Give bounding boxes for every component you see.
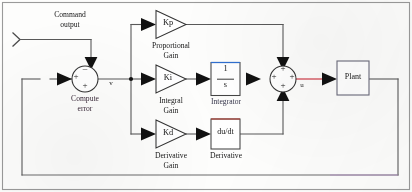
signal-label-v: v (106, 80, 116, 87)
integrator-caption: Integrator (198, 98, 254, 106)
ki-caption-line1: Integral (138, 97, 204, 105)
input-chevron-icon (13, 33, 20, 46)
arrowhead-ki-in (141, 73, 156, 86)
arrowhead-derivative-in (196, 128, 211, 141)
sum-error-caption-line2: error (55, 105, 115, 113)
sum-error-sign-top: – (80, 64, 90, 73)
kd-caption-line2: Gain (136, 162, 206, 170)
kp-caption-line1: Proportional (134, 42, 208, 50)
plant-label: Plant (337, 73, 369, 81)
signal-label-u: u (297, 82, 307, 89)
sum-error-sign-left: + (71, 72, 81, 81)
ki-caption-line2: Gain (138, 107, 204, 115)
sum-error-sign-bottom: + (80, 81, 90, 90)
gain-symbol-kd: Kd (157, 129, 179, 137)
gain-symbol-kp: Kp (157, 19, 179, 27)
arrowhead-sum-left-in (246, 73, 261, 86)
sum-u-sign-left: + (269, 72, 279, 81)
pid-block-diagram: Command output – + + Compute error v Kp … (0, 0, 412, 192)
kp-caption-line2: Gain (134, 52, 208, 60)
arrowhead-plant-in (322, 73, 337, 86)
arrowhead-kd-in (141, 128, 156, 141)
integrator-denominator: s (211, 81, 240, 89)
sum-u-sign-bottom: + (278, 81, 288, 90)
command-label-line2: output (31, 21, 109, 29)
sum-error-caption-line1: Compute (55, 95, 115, 103)
command-label-line1: Command (31, 11, 109, 19)
arrowhead-feedback-in (57, 73, 72, 86)
derivative-caption: Derivative (198, 152, 254, 160)
kd-caption-line1: Derivative (136, 152, 206, 160)
derivative-symbol: du/dt (211, 128, 240, 136)
sum-u-sign-right: + (287, 72, 297, 81)
arrowhead-integrator-in (196, 73, 211, 86)
arrowhead-kp-in (141, 18, 156, 31)
branch-point (129, 77, 133, 81)
integrator-numerator: 1 (211, 65, 240, 73)
gain-symbol-ki: Ki (157, 74, 179, 82)
